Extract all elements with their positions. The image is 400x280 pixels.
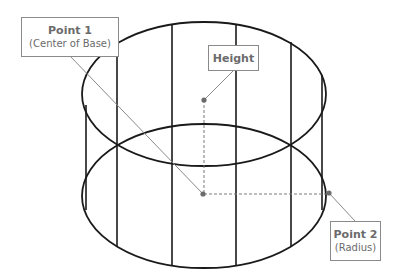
point1-label: Point 1 (Center of Base) [21,17,119,57]
height-point-dot [201,97,206,102]
height-title: Height [209,52,258,66]
radius-point-dot [326,190,331,195]
point1-subtitle: (Center of Base) [22,38,118,51]
point2-label: Point 2 (Radius) [330,221,381,261]
point2-title: Point 2 [331,228,380,242]
point1-title: Point 1 [22,24,118,38]
point2-subtitle: (Radius) [331,242,380,255]
center-point-dot [200,191,205,196]
height-label: Height [208,45,259,71]
point2-leader-line [329,193,355,221]
height-leader-line [204,71,233,100]
